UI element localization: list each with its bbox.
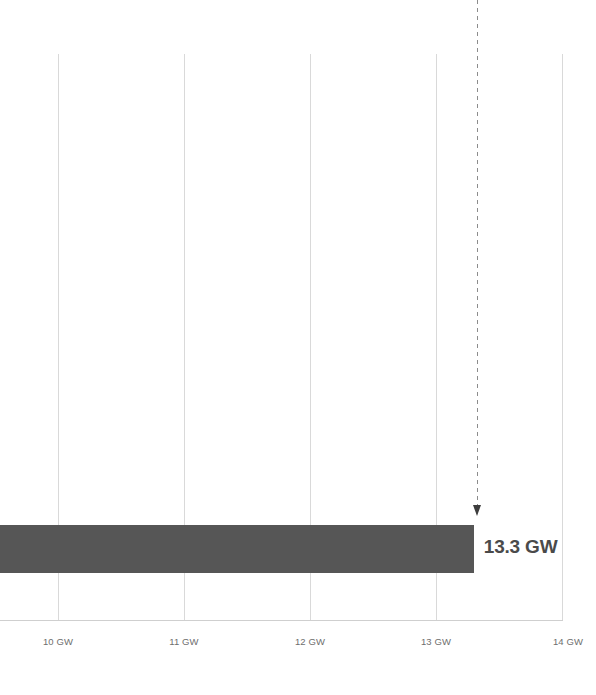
x-tick-label-13gw: 13 GW xyxy=(421,636,451,647)
x-tick-label-12gw: 12 GW xyxy=(295,636,325,647)
x-tick-label-10gw: 10 GW xyxy=(43,636,73,647)
x-axis-line xyxy=(0,620,563,621)
annotation-arrow-icon xyxy=(473,505,481,516)
x-tick-label-11gw: 11 GW xyxy=(169,636,198,647)
gridline-14gw xyxy=(562,54,563,621)
annotation-dashed-line xyxy=(477,0,478,508)
plot-area: 13.3 GW xyxy=(0,0,596,625)
bar-series-capacity[interactable] xyxy=(0,525,474,573)
bar-track xyxy=(0,525,474,573)
x-tick-label-14gw: 14 GW xyxy=(553,636,583,647)
bar-chart: 13.3 GW 10 GW 11 GW 12 GW 13 GW 14 GW xyxy=(0,0,596,695)
bar-value-label: 13.3 GW xyxy=(484,536,558,558)
